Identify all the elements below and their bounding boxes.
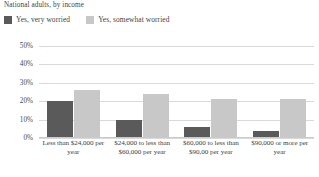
plot-area xyxy=(39,46,314,138)
chart-subtitle: National adults, by income xyxy=(4,1,84,9)
x-axis-line xyxy=(39,137,314,138)
y-axis-tick-label: 20% xyxy=(20,97,33,105)
x-axis-tick-label: $60,000 to less than $90,00 per year xyxy=(177,139,246,158)
y-axis-tick-label: 0% xyxy=(23,134,33,142)
bar-very-worried[interactable] xyxy=(47,101,73,138)
x-axis-tick-label: $24,000 to less than $60,000 per year xyxy=(108,139,177,158)
y-axis-tick-label: 30% xyxy=(20,79,33,87)
bar-groups xyxy=(39,46,314,138)
x-axis-tick-label: Less than $24,000 per year xyxy=(39,139,108,158)
bar-chart: National adults, by income Yes, very wor… xyxy=(0,0,319,177)
legend-item-somewhat-worried[interactable]: Yes, somewhat worried xyxy=(86,15,169,24)
bar-somewhat-worried[interactable] xyxy=(143,94,169,138)
bar-group xyxy=(245,46,314,138)
y-axis-tick-label: 50% xyxy=(20,42,33,50)
legend-label-somewhat-worried: Yes, somewhat worried xyxy=(98,15,169,24)
legend-swatch-very-worried xyxy=(4,16,12,24)
y-axis-tick-label: 40% xyxy=(20,60,33,68)
bar-very-worried[interactable] xyxy=(116,120,142,138)
bar-group xyxy=(177,46,246,138)
bar-group xyxy=(39,46,108,138)
y-axis-tick-label: 10% xyxy=(20,116,33,124)
bar-somewhat-worried[interactable] xyxy=(74,90,100,138)
x-axis-tick-label: $90,000 or more per year xyxy=(245,139,314,158)
bar-somewhat-worried[interactable] xyxy=(280,99,306,138)
bar-group xyxy=(108,46,177,138)
bar-somewhat-worried[interactable] xyxy=(211,99,237,138)
x-axis-labels: Less than $24,000 per year$24,000 to les… xyxy=(39,139,314,158)
legend-item-very-worried[interactable]: Yes, very worried xyxy=(4,15,70,24)
y-axis-labels: 50%40%30%20%10%0% xyxy=(0,46,36,138)
legend-swatch-somewhat-worried xyxy=(86,16,94,24)
legend-label-very-worried: Yes, very worried xyxy=(16,15,70,24)
chart-legend: Yes, very worried Yes, somewhat worried xyxy=(4,15,169,24)
